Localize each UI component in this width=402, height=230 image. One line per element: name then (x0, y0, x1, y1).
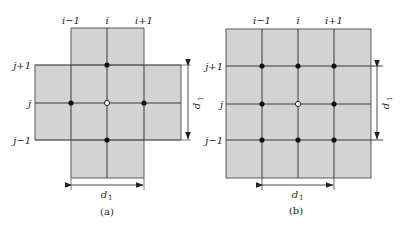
node-i-jminus1 (295, 137, 300, 142)
node-iplus1-jminus1 (331, 137, 336, 142)
svg-text:d: d (101, 189, 107, 200)
node-iminus1-j (259, 101, 264, 106)
svg-text:d: d (292, 189, 298, 200)
row-label-j: j (26, 98, 31, 109)
svg-text:1: 1 (108, 194, 112, 202)
dimension-horizontal-label: d 1 (101, 189, 113, 202)
node-iminus1-jplus1 (259, 63, 264, 68)
stencil-figure: i−1 i i+1 j+1 j j−1 d 1 d 1 (a) (0, 0, 402, 230)
node-iminus1-j (68, 100, 73, 105)
row-label-j: j (218, 99, 223, 110)
col-label-i-minus-1: i−1 (62, 15, 80, 26)
svg-text:1: 1 (386, 97, 394, 101)
col-label-i: i (296, 15, 299, 26)
row-label-j-minus-1: j−1 (11, 135, 31, 146)
svg-text:1: 1 (197, 97, 205, 101)
node-i-jminus1 (104, 137, 109, 142)
node-iplus1-j (141, 100, 146, 105)
col-label-i-plus-1: i+1 (325, 15, 343, 26)
node-i-jplus1 (104, 62, 109, 67)
col-label-i-minus-1: i−1 (253, 15, 271, 26)
col-label-i-plus-1: i+1 (135, 15, 153, 26)
dimension-vertical-label: d 1 (191, 97, 205, 110)
row-label-j-minus-1: j−1 (203, 135, 223, 146)
node-iminus1-jminus1 (259, 137, 264, 142)
node-i-jplus1 (295, 63, 300, 68)
diagram-a: i−1 i i+1 j+1 j j−1 d 1 d 1 (a) (11, 15, 205, 217)
diagram-b: i−1 i i+1 j+1 j j−1 d 1 d 1 (b) (203, 15, 394, 216)
node-iplus1-j (331, 101, 336, 106)
row-label-j-plus-1: j+1 (11, 60, 31, 71)
svg-text:d: d (191, 103, 202, 109)
center-node (104, 100, 109, 105)
svg-text:d: d (380, 103, 391, 109)
svg-text:1: 1 (299, 194, 303, 202)
col-label-i: i (105, 15, 108, 26)
node-iplus1-jplus1 (331, 63, 336, 68)
center-node (295, 101, 300, 106)
row-label-j-plus-1: j+1 (203, 61, 223, 72)
caption-a: (a) (100, 206, 114, 217)
caption-b: (b) (289, 205, 303, 216)
dimension-vertical-label: d 1 (380, 97, 394, 110)
dimension-horizontal-label: d 1 (292, 189, 304, 202)
